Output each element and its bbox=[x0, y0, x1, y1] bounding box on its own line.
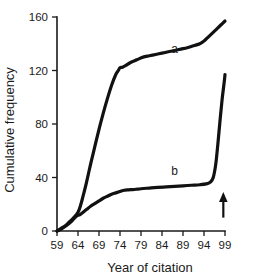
x-tick-label: 99 bbox=[219, 239, 232, 251]
x-tick-label: 64 bbox=[72, 239, 85, 251]
x-tick-label: 74 bbox=[114, 239, 127, 251]
x-tick-label: 79 bbox=[135, 239, 148, 251]
x-axis-title: Year of citation bbox=[107, 260, 193, 275]
y-tick-label: 40 bbox=[35, 172, 48, 184]
series-label-a: a bbox=[171, 42, 178, 56]
cumulative-frequency-chart: 04080120160 596469747984899499 ab Year o… bbox=[0, 0, 255, 280]
y-tick-label: 80 bbox=[35, 118, 48, 130]
y-tick-label: 160 bbox=[29, 11, 48, 23]
y-tick-label: 120 bbox=[29, 65, 48, 77]
y-tick-label: 0 bbox=[42, 225, 48, 237]
x-tick-label: 89 bbox=[177, 239, 190, 251]
up-arrow-head bbox=[219, 192, 228, 202]
x-tick-label: 59 bbox=[51, 239, 64, 251]
x-tick-label: 69 bbox=[93, 239, 106, 251]
series-line-a bbox=[57, 21, 225, 231]
x-axis-ticks: 596469747984899499 bbox=[51, 231, 232, 251]
series-line-b bbox=[57, 75, 225, 231]
series-label-b: b bbox=[171, 164, 178, 178]
y-axis-ticks: 04080120160 bbox=[29, 11, 57, 237]
series-group: ab bbox=[57, 21, 225, 231]
x-tick-label: 94 bbox=[198, 239, 211, 251]
chart-container: 04080120160 596469747984899499 ab Year o… bbox=[0, 0, 255, 280]
y-axis-title: Cumulative frequency bbox=[2, 67, 17, 193]
annotations-group bbox=[219, 192, 228, 218]
x-tick-label: 84 bbox=[156, 239, 169, 251]
